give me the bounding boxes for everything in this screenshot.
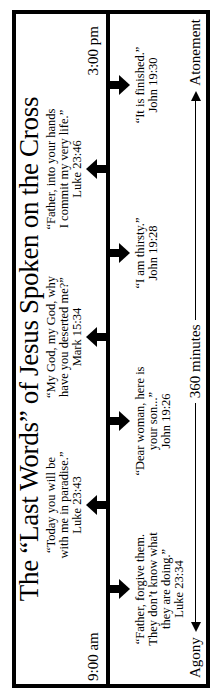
scripture-reference: Luke 23:43 bbox=[71, 415, 84, 595]
quote-block: “Father, into your handsI commit my very… bbox=[45, 79, 84, 259]
quote-block: “My God, my God, whyhave you deserted me… bbox=[45, 247, 84, 427]
event-arrow-up-icon bbox=[86, 327, 106, 347]
scripture-reference: John 19:28 bbox=[147, 163, 160, 343]
scripture-reference: Luke 23:46 bbox=[71, 79, 84, 259]
quote-block: “It is finished.”John 19:30 bbox=[134, 0, 160, 175]
quote-block: “Father, forgive them.They don’t know wh… bbox=[134, 499, 186, 679]
diagram-frame: The “Last Words” of Jesus Spoken on the … bbox=[12, 10, 210, 688]
event-arrow-up-icon bbox=[86, 159, 106, 179]
scripture-reference: John 19:30 bbox=[147, 0, 160, 175]
event-arrow-down-icon bbox=[110, 411, 130, 431]
event-arrow-down-icon bbox=[110, 243, 130, 263]
axis-atonement-label: Atonement bbox=[187, 19, 204, 86]
time-row: 9:00 am 3:00 pm bbox=[85, 26, 102, 681]
time-label-end: 3:00 pm bbox=[85, 26, 102, 76]
axis-arrow-left-icon bbox=[191, 622, 201, 632]
quote-block: “Dear woman, here isyour son...”John 19:… bbox=[134, 331, 173, 511]
diagram-title: The “Last Words” of Jesus Spoken on the … bbox=[13, 14, 45, 684]
landscape-diagram: The “Last Words” of Jesus Spoken on the … bbox=[0, 0, 222, 700]
quote-block: “Today you will bewith me in paradise.”L… bbox=[45, 415, 84, 595]
event-arrow-up-icon bbox=[86, 495, 106, 515]
scripture-reference: Luke 23:34 bbox=[173, 499, 186, 679]
scripture-reference: Mark 15:34 bbox=[71, 247, 84, 427]
axis-arrow-right-icon bbox=[191, 91, 201, 101]
quote-block: “I am thirsty.”John 19:28 bbox=[134, 163, 160, 343]
axis-agony-label: Agony bbox=[187, 637, 204, 678]
axis-duration-label: 360 minutes bbox=[187, 325, 204, 399]
axis-row: Agony 360 minutes Atonement bbox=[187, 19, 204, 678]
event-arrow-down-icon bbox=[110, 579, 130, 599]
event-arrow-down-icon bbox=[110, 75, 130, 95]
axis-line-left bbox=[191, 403, 201, 632]
scripture-reference: John 19:26 bbox=[160, 331, 173, 511]
time-label-start: 9:00 am bbox=[85, 632, 102, 681]
axis-line-right bbox=[191, 91, 201, 320]
rotated-canvas: The “Last Words” of Jesus Spoken on the … bbox=[0, 0, 222, 700]
